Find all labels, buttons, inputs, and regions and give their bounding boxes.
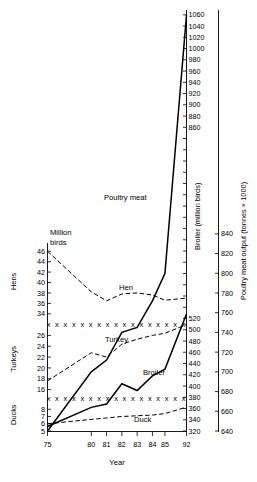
break-turkeys-ducks-mark-12: x [148, 394, 152, 403]
tick-label-hens-44: 44 [37, 257, 45, 266]
break-hens-turkeys-mark-13: x [156, 320, 160, 329]
tick-label-broiler-900: 900 [189, 100, 201, 109]
break-turkeys-ducks-mark-13: x [156, 394, 160, 403]
tick-label-broiler-340: 340 [189, 415, 201, 424]
x-axis-title: Year [109, 458, 125, 467]
break-turkeys-ducks-mark-1: x [55, 394, 59, 403]
tick-label-broiler-360: 360 [189, 404, 201, 413]
break-turkeys-ducks-mark-9: x [123, 394, 127, 403]
tick-label-pm-700: 700 [221, 367, 233, 376]
break-hens-turkeys-mark-15: x [173, 320, 177, 329]
break-turkeys-ducks-mark-6: x [97, 394, 101, 403]
tick-label-broiler-860: 860 [189, 123, 201, 132]
tick-label-broiler-380: 380 [189, 393, 201, 402]
break-turkeys-ducks-mark-10: x [131, 394, 135, 403]
tick-label-hens-42: 42 [37, 268, 45, 277]
tick-label-hens-38: 38 [37, 289, 45, 298]
x-axis-ticks: 7580818283848592 [44, 432, 191, 450]
break-hens-turkeys-mark-7: x [106, 320, 110, 329]
tick-label-x-85: 85 [161, 440, 169, 449]
tick-label-turkeys-18: 18 [37, 374, 45, 383]
axis-break-row-hens-turkeys: xxxxxxxxxxxxxxxxx [47, 320, 186, 329]
tick-label-pm-640: 640 [221, 427, 233, 436]
break-hens-turkeys-mark-2: x [64, 320, 68, 329]
poultry-statistics-chart: 34363840424446 Hens 161820222426 Turkeys… [0, 0, 257, 482]
series-label-turkey: Turkey [105, 335, 128, 344]
hens-ticks: 34363840424446 [37, 247, 51, 319]
tick-label-pm-660: 660 [221, 407, 233, 416]
tick-label-pm-760: 760 [221, 308, 233, 317]
axis-break-row-turkeys-ducks: xxxxxxxxxxxxxxxxx [47, 394, 186, 403]
hens-axis-group: 34363840424446 Hens [9, 247, 51, 319]
tick-label-x-83: 83 [133, 440, 141, 449]
series-label-broiler: Broiler [143, 368, 165, 377]
tick-label-turkeys-16: 16 [37, 385, 45, 394]
poultry-meat-ticks: 640660680700720740760780800820840 [215, 229, 233, 435]
tick-label-broiler-400: 400 [189, 382, 201, 391]
series-label-hen: Hen [119, 283, 133, 292]
tick-label-pm-680: 680 [221, 387, 233, 396]
break-hens-turkeys-mark-4: x [80, 320, 84, 329]
unit-note-line1: Million [50, 228, 72, 237]
tick-label-broiler-980: 980 [189, 55, 201, 64]
tick-label-x-82: 82 [118, 440, 126, 449]
poultry-meat-axis-title: Poultry meat output (tonnes × 1000) [239, 182, 248, 300]
break-hens-turkeys-mark-9: x [123, 320, 127, 329]
series-line-broiler [48, 314, 187, 426]
tick-label-pm-780: 780 [221, 289, 233, 298]
tick-label-broiler-1060: 1060 [189, 10, 205, 19]
ducks-ticks: 5678 [41, 405, 51, 436]
break-hens-turkeys-mark-0: x [47, 320, 51, 329]
unit-note-line2: birds [50, 238, 67, 247]
poultry-meat-axis-group: 640660680700720740760780800820840 Poultr… [215, 182, 248, 436]
tick-label-x-81: 81 [103, 440, 111, 449]
turkeys-axis-group: 161820222426 Turkeys [9, 331, 51, 394]
tick-label-broiler-880: 880 [189, 112, 201, 121]
tick-label-broiler-420: 420 [189, 370, 201, 379]
hens-axis-title: Hens [9, 272, 18, 290]
broiler-axis-title: Broiler (million birds) [193, 183, 202, 250]
break-hens-turkeys-mark-8: x [114, 320, 118, 329]
break-turkeys-ducks-mark-8: x [114, 394, 118, 403]
chart-svg: 34363840424446 Hens 161820222426 Turkeys… [0, 0, 257, 482]
ducks-axis-group: 5678 Ducks [9, 404, 51, 435]
turkeys-ticks: 161820222426 [37, 331, 51, 394]
tick-label-ducks-8: 8 [41, 405, 45, 414]
tick-label-broiler-500: 500 [189, 325, 201, 334]
series-layer [48, 15, 187, 431]
ducks-axis-title: Ducks [9, 404, 18, 425]
tick-label-broiler-440: 440 [189, 359, 201, 368]
turkeys-axis-title: Turkeys [9, 346, 18, 372]
break-turkeys-ducks-mark-14: x [165, 394, 169, 403]
break-hens-turkeys-mark-12: x [148, 320, 152, 329]
tick-label-broiler-920: 920 [189, 89, 201, 98]
tick-label-pm-740: 740 [221, 328, 233, 337]
break-turkeys-ducks-mark-5: x [89, 394, 93, 403]
break-hens-turkeys-mark-5: x [89, 320, 93, 329]
tick-label-broiler-1040: 1040 [189, 22, 205, 31]
tick-label-x-75: 75 [44, 440, 52, 449]
break-turkeys-ducks-mark-11: x [139, 394, 143, 403]
break-turkeys-ducks-mark-16: x [182, 394, 186, 403]
break-turkeys-ducks-mark-2: x [64, 394, 68, 403]
tick-label-x-92: 92 [183, 440, 191, 449]
tick-label-hens-46: 46 [37, 247, 45, 256]
tick-label-broiler-320: 320 [189, 427, 201, 436]
tick-label-turkeys-20: 20 [37, 364, 45, 373]
tick-label-broiler-960: 960 [189, 67, 201, 76]
series-label-poultry-meat: Poultry meat [104, 193, 148, 202]
series-line-duck [48, 407, 187, 424]
tick-label-pm-720: 720 [221, 348, 233, 357]
tick-label-pm-840: 840 [221, 229, 233, 238]
tick-label-broiler-460: 460 [189, 348, 201, 357]
break-hens-turkeys-mark-1: x [55, 320, 59, 329]
tick-label-turkeys-26: 26 [37, 331, 45, 340]
tick-label-pm-800: 800 [221, 269, 233, 278]
tick-label-broiler-940: 940 [189, 78, 201, 87]
tick-label-hens-40: 40 [37, 278, 45, 287]
tick-label-hens-36: 36 [37, 299, 45, 308]
tick-label-broiler-520: 520 [189, 314, 201, 323]
series-label-duck: Duck [134, 415, 152, 424]
tick-label-pm-820: 820 [221, 249, 233, 258]
tick-label-turkeys-22: 22 [37, 353, 45, 362]
